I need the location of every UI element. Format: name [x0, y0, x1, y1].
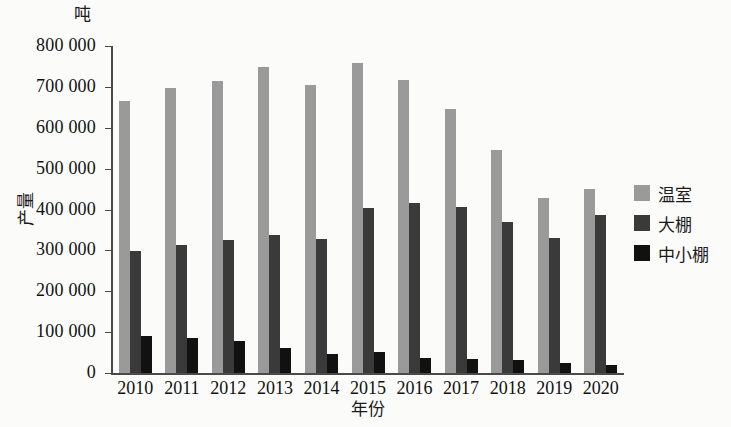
y-tick-mark: 300 000: [105, 250, 112, 251]
bar-chart: 吨 产量 800 000700 000600 000500 000400 000…: [0, 0, 731, 427]
bar: [130, 251, 141, 373]
bar: [305, 85, 316, 373]
y-tick-mark: 500 000: [105, 169, 112, 170]
bar: [513, 360, 524, 373]
bar: [119, 101, 130, 373]
y-tick-label: 500 000: [36, 158, 96, 179]
bar: [280, 348, 291, 373]
bar: [606, 365, 617, 373]
bar: [212, 81, 223, 373]
legend-label: 温室: [658, 181, 692, 206]
bar: [584, 189, 595, 373]
bar: [409, 203, 420, 373]
y-tick-mark: 600 000: [105, 128, 112, 129]
y-tick-label: 400 000: [36, 199, 96, 220]
bar-group: [212, 46, 245, 373]
bar: [223, 240, 234, 373]
legend-item: 温室: [634, 178, 709, 208]
bar-group: [538, 46, 571, 373]
x-axis-title: 年份: [112, 395, 624, 420]
bar: [187, 338, 198, 373]
bar: [398, 80, 409, 373]
plot-area: 800 000700 000600 000500 000400 000300 0…: [112, 46, 624, 373]
bar-group: [119, 46, 152, 373]
bar-group: [165, 46, 198, 373]
legend-label: 中小棚: [658, 241, 709, 266]
bar: [176, 245, 187, 373]
y-tick-label: 100 000: [36, 321, 96, 342]
bar: [269, 235, 280, 373]
y-tick-mark: 100 000: [105, 332, 112, 333]
legend-label: 大棚: [658, 211, 692, 236]
y-tick-mark: 200 000: [105, 291, 112, 292]
bar: [165, 88, 176, 373]
bar: [258, 67, 269, 373]
legend-swatch-icon: [634, 185, 650, 201]
bar: [467, 359, 478, 373]
bar: [316, 239, 327, 373]
y-tick-mark: 400 000: [105, 210, 112, 211]
y-tick-label: 600 000: [36, 117, 96, 138]
bar-group: [305, 46, 338, 373]
y-axis-unit-label: 吨: [74, 4, 91, 24]
y-tick-label: 800 000: [36, 35, 96, 56]
bar-group: [445, 46, 478, 373]
bar: [502, 222, 513, 373]
bar: [560, 363, 571, 373]
bar: [420, 358, 431, 373]
x-axis-line: [111, 373, 624, 375]
y-tick-mark: 800 000: [105, 46, 112, 47]
bar-group: [584, 46, 617, 373]
y-tick-label: 300 000: [36, 239, 96, 260]
bar: [234, 341, 245, 373]
bar-group: [258, 46, 291, 373]
bar: [352, 63, 363, 373]
y-axis-title: 产量: [12, 179, 37, 239]
bar: [538, 198, 549, 373]
y-tick-label: 0: [87, 362, 96, 383]
bar-group: [352, 46, 385, 373]
bar: [327, 354, 338, 373]
bar-group: [491, 46, 524, 373]
bar: [141, 336, 152, 373]
y-tick-label: 200 000: [36, 280, 96, 301]
legend-swatch-icon: [634, 215, 650, 231]
y-tick-mark: 700 000: [105, 87, 112, 88]
bar: [549, 238, 560, 373]
bar: [445, 109, 456, 373]
bar-group: [398, 46, 431, 373]
chart-legend: 温室大棚中小棚: [634, 178, 709, 268]
bar: [363, 208, 374, 373]
y-tick-mark: 0: [105, 373, 112, 374]
bar: [491, 150, 502, 373]
legend-swatch-icon: [634, 245, 650, 261]
bar: [595, 215, 606, 373]
legend-item: 中小棚: [634, 238, 709, 268]
y-tick-label: 700 000: [36, 76, 96, 97]
bar: [374, 352, 385, 373]
legend-item: 大棚: [634, 208, 709, 238]
bar: [456, 207, 467, 373]
